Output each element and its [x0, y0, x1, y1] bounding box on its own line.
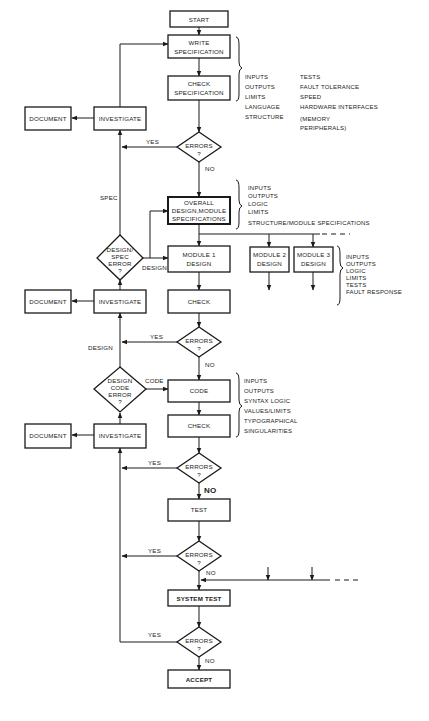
svg-text:ERROR: ERROR: [108, 260, 132, 267]
software-development-flowchart: START WRITE SPECIFICATION CHECK SPECIFIC…: [0, 0, 429, 721]
code-box: CODE: [168, 380, 230, 402]
svg-text:INPUTS: INPUTS: [245, 74, 268, 80]
svg-text:SYSTEM TEST: SYSTEM TEST: [176, 595, 221, 602]
svg-text:STRUCTURE/MODULE SPECIFICATION: STRUCTURE/MODULE SPECIFICATIONS: [248, 220, 370, 226]
svg-text:SPECIFICATION: SPECIFICATION: [174, 48, 224, 55]
svg-text:FAULT TOLERANCE: FAULT TOLERANCE: [300, 84, 359, 90]
svg-text:TESTS: TESTS: [300, 74, 320, 80]
svg-text:CODE: CODE: [190, 387, 209, 394]
svg-text:?: ?: [118, 267, 122, 274]
svg-text:CHECK: CHECK: [188, 80, 211, 87]
document-box-3: DOCUMENT: [25, 424, 71, 448]
svg-text:LANGUAGE: LANGUAGE: [245, 104, 280, 110]
investigate-box-3: INVESTIGATE: [94, 424, 146, 448]
svg-text:LIMITS: LIMITS: [245, 94, 266, 100]
svg-text:?: ?: [197, 150, 201, 157]
svg-text:TESTS: TESTS: [346, 282, 366, 288]
svg-text:CHECK: CHECK: [188, 298, 211, 305]
svg-text:STRUCTURE: STRUCTURE: [245, 114, 284, 120]
svg-text:VALUES/LIMITS: VALUES/LIMITS: [244, 408, 291, 414]
code-notes: INPUTS OUTPUTS SYNTAX LOGIC VALUES/LIMIT…: [236, 373, 298, 437]
overall-design-box: OVERALL DESIGN,MODULE SPECIFICATIONS: [168, 197, 230, 224]
main-connectors: [199, 27, 360, 670]
svg-text:DESIGN: DESIGN: [301, 260, 326, 267]
spec-notes: INPUTS OUTPUTS LIMITS LANGUAGE STRUCTURE…: [236, 37, 378, 131]
svg-text:OUTPUTS: OUTPUTS: [346, 261, 376, 267]
svg-text:NO: NO: [205, 165, 215, 172]
svg-text:LOGIC: LOGIC: [248, 201, 268, 207]
svg-text:ERRORS: ERRORS: [185, 551, 213, 558]
svg-text:SPEED: SPEED: [300, 94, 322, 100]
svg-text:NO: NO: [206, 569, 216, 576]
svg-text:MODULE 3: MODULE 3: [297, 251, 331, 258]
svg-text:NO: NO: [205, 361, 215, 368]
errors-decision-4: ERRORS ?: [177, 541, 221, 571]
svg-text:TYPOGRAPHICAL: TYPOGRAPHICAL: [244, 418, 298, 424]
svg-text:YES: YES: [148, 547, 161, 554]
svg-text:DESIGN: DESIGN: [88, 344, 113, 351]
svg-text:INVESTIGATE: INVESTIGATE: [99, 115, 142, 122]
svg-text:INVESTIGATE: INVESTIGATE: [99, 298, 142, 305]
svg-text:?: ?: [197, 471, 201, 478]
svg-text:NO: NO: [205, 657, 215, 664]
svg-text:SYNTAX LOGIC: SYNTAX LOGIC: [244, 398, 291, 404]
document-box-2: DOCUMENT: [25, 290, 71, 313]
svg-text:ERRORS: ERRORS: [185, 637, 213, 644]
svg-text:OVERALL: OVERALL: [184, 199, 214, 206]
svg-text:MODULE 2: MODULE 2: [253, 251, 287, 258]
svg-text:?: ?: [118, 398, 122, 405]
errors-decision-3: ERRORS ?: [177, 453, 221, 483]
svg-text:OUTPUTS: OUTPUTS: [245, 84, 275, 90]
accept-box: ACCEPT: [168, 670, 230, 688]
svg-text:OUTPUTS: OUTPUTS: [248, 193, 278, 199]
svg-text:NO: NO: [204, 486, 216, 495]
design-check-box: CHECK: [168, 290, 230, 313]
svg-text:?: ?: [197, 645, 201, 652]
svg-text:SPECIFICATION: SPECIFICATION: [174, 89, 224, 96]
system-test-box: SYSTEM TEST: [168, 590, 230, 606]
svg-text:DOCUMENT: DOCUMENT: [29, 298, 66, 305]
svg-text:YES: YES: [148, 631, 161, 638]
svg-text:DOCUMENT: DOCUMENT: [29, 432, 66, 439]
investigate-box-2: INVESTIGATE: [94, 290, 146, 313]
svg-text:START: START: [189, 16, 210, 23]
errors-decision-1: ERRORS ?: [177, 132, 221, 162]
svg-text:CHECK: CHECK: [188, 422, 211, 429]
document-box-1: DOCUMENT: [25, 107, 71, 130]
svg-text:INPUTS: INPUTS: [244, 378, 267, 384]
svg-text:OUTPUTS: OUTPUTS: [244, 388, 274, 394]
svg-text:DESIGN: DESIGN: [142, 264, 167, 271]
svg-text:DESIGN: DESIGN: [187, 260, 212, 267]
svg-text:SINGULARITIES: SINGULARITIES: [244, 428, 292, 434]
svg-text:YES: YES: [146, 138, 159, 145]
svg-text:YES: YES: [148, 459, 161, 466]
svg-text:CODE: CODE: [111, 384, 130, 391]
svg-text:DESIGN/: DESIGN/: [107, 246, 134, 253]
module-1-design-box: MODULE 1 DESIGN: [168, 246, 230, 272]
errors-decision-2: ERRORS ?: [177, 327, 221, 357]
test-box: TEST: [168, 499, 230, 521]
errors-decision-5: ERRORS ?: [177, 627, 221, 657]
svg-text:DESIGN: DESIGN: [257, 260, 282, 267]
svg-text:PERIPHERALS): PERIPHERALS): [300, 125, 346, 131]
svg-text:ERROR: ERROR: [108, 391, 132, 398]
module-3-design-box: MODULE 3 DESIGN: [294, 247, 333, 272]
design-spec-error-decision: DESIGN/ SPEC ERROR ?: [97, 235, 143, 280]
svg-text:(MEMORY: (MEMORY: [300, 116, 330, 122]
svg-text:SPEC: SPEC: [111, 253, 129, 260]
svg-text:?: ?: [197, 559, 201, 566]
svg-text:CODE: CODE: [145, 377, 164, 384]
svg-text:YES: YES: [150, 333, 163, 340]
svg-text:DESIGN,MODULE: DESIGN,MODULE: [172, 207, 227, 214]
svg-text:INPUTS: INPUTS: [248, 185, 271, 191]
svg-text:HARDWARE INTERFACES: HARDWARE INTERFACES: [300, 104, 378, 110]
code-check-box: CHECK: [168, 415, 230, 437]
design-notes: INPUTS OUTPUTS LOGIC LIMITS STRUCTURE/MO…: [236, 180, 370, 229]
svg-text:DESIGN: DESIGN: [108, 377, 133, 384]
module-notes: INPUTS OUTPUTS LOGIC LIMITS TESTS FAULT …: [337, 246, 402, 305]
svg-text:ERRORS: ERRORS: [185, 463, 213, 470]
svg-text:TEST: TEST: [191, 506, 208, 513]
svg-text:LOGIC: LOGIC: [346, 268, 366, 274]
svg-text:SPECIFICATIONS: SPECIFICATIONS: [172, 215, 226, 222]
check-specification-box: CHECK SPECIFICATION: [168, 76, 230, 100]
